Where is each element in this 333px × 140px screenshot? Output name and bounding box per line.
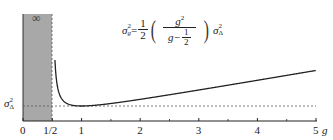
x-axis-name: g [322,124,328,136]
sub: Δ [218,30,223,37]
formula: σ2g = 12 ( g2 g−12 ) σ2Δ [122,13,223,47]
half: 12 [182,28,191,47]
x-tick-label: 2 [137,124,143,136]
x-tick-label: 1 [79,124,85,136]
infinity-label: ∞ [32,11,41,26]
equals: = [131,24,137,36]
den: g−12 [166,28,193,47]
data-curve [55,60,316,106]
x-tick-label: 5 [313,124,319,136]
x-tick-label: 0 [20,124,26,136]
num: g2 [163,13,196,28]
den: 2 [138,30,148,41]
den: 2 [182,38,191,47]
left-paren: ( [150,17,155,43]
sup: 2 [181,14,185,22]
shaded-region [23,14,52,121]
x-tick-label: 3 [196,124,202,136]
main-fraction: g2 g−12 [163,13,196,47]
g-minus: g− [168,32,181,43]
coefficient: 12 [138,18,148,41]
x-tick-label: 4 [254,124,260,136]
y-reference-label: σ2Δ [4,97,14,111]
right-paren: ) [204,17,209,43]
x-tick-label: 1/2 [43,124,57,136]
sub: Δ [9,104,14,111]
